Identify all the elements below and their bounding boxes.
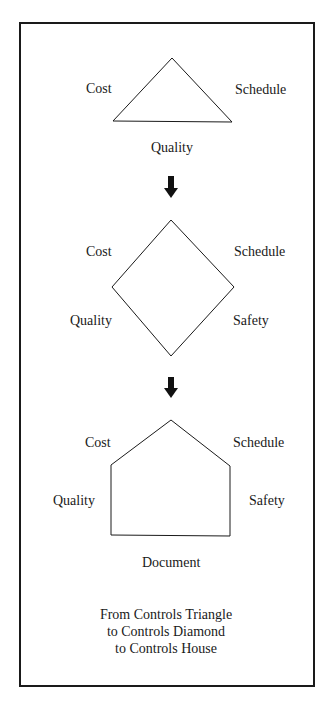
- diamond-label-schedule: Schedule: [234, 244, 285, 260]
- caption-line-3: to Controls House: [0, 640, 332, 657]
- house-label-schedule: Schedule: [233, 435, 284, 451]
- controls-triangle: [113, 58, 232, 122]
- down-arrow-icon: [164, 377, 178, 398]
- diagram-caption: From Controls Triangle to Controls Diamo…: [0, 606, 332, 657]
- house-label-safety: Safety: [249, 493, 285, 509]
- house-label-document: Document: [142, 555, 200, 571]
- caption-line-2: to Controls Diamond: [0, 623, 332, 640]
- diamond-label-quality: Quality: [70, 313, 112, 329]
- triangle-label-cost: Cost: [86, 81, 112, 97]
- caption-line-1: From Controls Triangle: [0, 606, 332, 623]
- controls-house: [111, 420, 230, 536]
- house-label-cost: Cost: [85, 435, 111, 451]
- diamond-label-cost: Cost: [86, 244, 112, 260]
- diagram-shapes: [0, 0, 332, 704]
- triangle-label-schedule: Schedule: [235, 82, 286, 98]
- house-label-quality: Quality: [53, 493, 95, 509]
- triangle-label-quality: Quality: [151, 140, 193, 156]
- down-arrow-icon: [164, 176, 178, 198]
- controls-diamond: [112, 220, 234, 356]
- diamond-label-safety: Safety: [233, 313, 269, 329]
